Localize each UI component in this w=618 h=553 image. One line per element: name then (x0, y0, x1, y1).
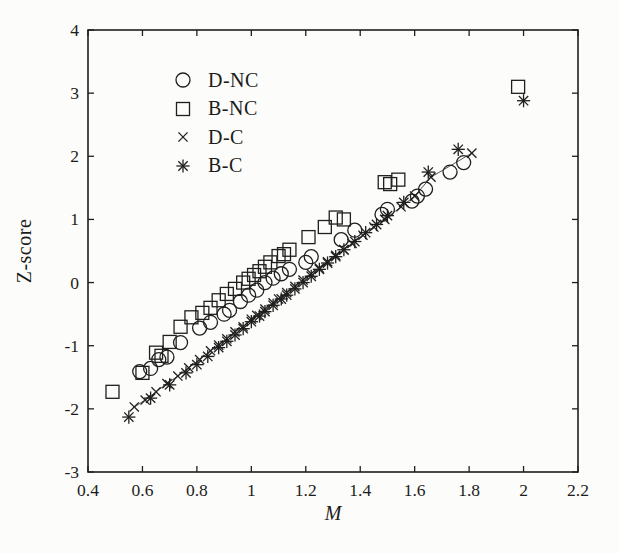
x-tick-label: 2.2 (567, 480, 589, 500)
y-axis-ticks (88, 30, 578, 472)
legend-item-d-nc: D-NC (167, 66, 259, 95)
legend-item-b-nc: B-NC (167, 95, 259, 124)
scatter-plot-figure: 0.40.60.811.21.41.61.822.2-3-2-101234 Z-… (0, 0, 618, 553)
y-tick-label: 2 (70, 146, 79, 166)
x-tick-label: 1.4 (349, 480, 371, 500)
x-axis-tick-labels: 0.40.60.811.21.41.61.822.2 (77, 480, 589, 500)
y-tick-label: -2 (64, 399, 79, 419)
y-axis-title: Z-score (13, 219, 36, 284)
circle-marker-icon (167, 68, 199, 92)
x-tick-label: 0.4 (77, 480, 99, 500)
x-tick-label: 1.2 (295, 480, 317, 500)
legend-item-b-c: B-C (167, 152, 259, 181)
x-tick-label: 1.6 (404, 480, 426, 500)
y-tick-label: 3 (70, 83, 79, 103)
x-tick-label: 2 (519, 480, 528, 500)
axes-box (88, 30, 578, 472)
plot-canvas: 0.40.60.811.21.41.61.822.2-3-2-101234 (0, 0, 618, 553)
x-tick-label: 0.6 (132, 480, 154, 500)
x-tick-label: 1.8 (458, 480, 480, 500)
y-axis-tick-labels: -3-2-101234 (64, 20, 79, 482)
square-marker-icon (167, 97, 199, 121)
x-tick-label: 1 (247, 480, 256, 500)
y-tick-label: -3 (64, 462, 79, 482)
y-tick-label: 4 (70, 20, 79, 40)
x-tick-label: 0.8 (186, 480, 208, 500)
x-axis-ticks (88, 30, 578, 472)
legend: D-NC B-NC D-C B-C (167, 66, 259, 180)
legend-item-d-c: D-C (167, 123, 259, 152)
y-tick-label: 0 (70, 273, 79, 293)
y-tick-label: 1 (70, 209, 79, 229)
asterisk-marker-icon (167, 154, 199, 178)
legend-label-b-nc: B-NC (208, 97, 258, 120)
x-axis-title: M (325, 502, 342, 525)
series-d-nc (133, 156, 471, 379)
legend-label-b-c: B-C (208, 154, 243, 177)
legend-label-d-c: D-C (208, 126, 244, 149)
y-tick-label: -1 (64, 336, 79, 356)
legend-label-d-nc: D-NC (208, 69, 259, 92)
cross-marker-icon (167, 125, 199, 149)
